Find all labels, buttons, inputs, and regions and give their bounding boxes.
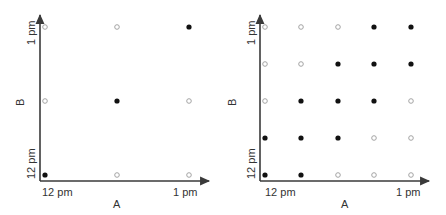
left-panel: 12 pm 1 pm A 12 pm 1 pm B [14, 15, 209, 210]
hollow-dot [43, 99, 48, 104]
hollow-dot [409, 99, 414, 104]
left-points [42, 24, 191, 177]
left-y-tick-end: 1 pm [25, 21, 37, 45]
filled-dot [371, 24, 376, 29]
hollow-dot [187, 99, 192, 104]
diagram-canvas: 12 pm 1 pm A 12 pm 1 pm B 12 pm 1 pm A 1… [0, 0, 446, 215]
hollow-dot [115, 25, 120, 30]
hollow-dot [299, 25, 304, 30]
left-y-tick-start: 12 pm [25, 148, 37, 179]
filled-dot [262, 135, 267, 140]
right-y-tick-start: 12 pm [245, 148, 257, 179]
filled-dot [335, 98, 340, 103]
filled-dot [114, 98, 119, 103]
left-x-tick-end: 1 pm [173, 186, 197, 198]
filled-dot [371, 61, 376, 66]
filled-dot [335, 61, 340, 66]
right-x-tick-start: 12 pm [265, 186, 296, 198]
hollow-dot [263, 62, 268, 67]
hollow-dot [372, 136, 377, 141]
filled-dot [42, 172, 47, 177]
filled-dot [408, 24, 413, 29]
hollow-dot [409, 173, 414, 178]
hollow-dot [372, 173, 377, 178]
filled-dot [262, 172, 267, 177]
filled-dot [371, 98, 376, 103]
filled-dot [298, 172, 303, 177]
right-points [262, 24, 413, 177]
hollow-dot [409, 136, 414, 141]
hollow-dot [336, 173, 341, 178]
hollow-dot [187, 173, 192, 178]
filled-dot [335, 135, 340, 140]
filled-dot [298, 98, 303, 103]
right-y-tick-end: 1 pm [245, 21, 257, 45]
filled-dot [298, 135, 303, 140]
filled-dot [408, 61, 413, 66]
left-x-tick-start: 12 pm [42, 186, 73, 198]
hollow-dot [263, 25, 268, 30]
left-x-axis-label: A [113, 198, 121, 210]
hollow-dot [263, 99, 268, 104]
right-x-axis-label: A [341, 198, 349, 210]
hollow-dot [299, 62, 304, 67]
right-y-axis-label: B [226, 99, 238, 106]
right-x-tick-end: 1 pm [396, 186, 420, 198]
filled-dot [186, 24, 191, 29]
right-panel: 12 pm 1 pm A 12 pm 1 pm B [226, 15, 429, 210]
hollow-dot [115, 173, 120, 178]
hollow-dot [336, 25, 341, 30]
left-y-axis-label: B [14, 99, 26, 106]
hollow-dot [43, 25, 48, 30]
